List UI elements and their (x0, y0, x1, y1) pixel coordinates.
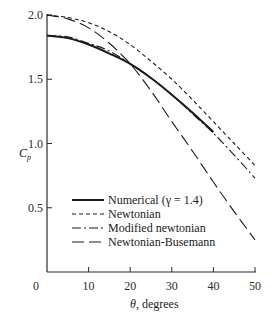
x-tick-label: 10 (83, 279, 95, 293)
x-axis-label: θ, degrees (130, 297, 179, 311)
legend-label: Modified newtonian (108, 221, 206, 235)
legend-label: Numerical (γ = 1.4) (108, 193, 203, 207)
y-ticks: 0.51.01.52.0 (28, 8, 52, 215)
series-line-2 (47, 36, 255, 179)
x-tick-label: 50 (249, 279, 261, 293)
axes: 0.51.01.52.0 1020304050 (28, 8, 261, 293)
legend: Numerical (γ = 1.4)NewtonianModified new… (72, 193, 215, 249)
legend-label: Newtonian (108, 207, 161, 221)
x-tick-label-zero: 0 (33, 279, 39, 293)
y-tick-label: 1.0 (28, 137, 43, 151)
series-line-1 (47, 15, 255, 165)
x-tick-label: 30 (166, 279, 178, 293)
chart: 0.51.01.52.0 1020304050 Numerical (γ = 1… (0, 0, 273, 314)
y-tick-label: 1.5 (28, 72, 43, 86)
legend-label: Newtonian-Busemann (108, 235, 215, 249)
series-line-0 (47, 36, 213, 132)
y-tick-label: 0.5 (28, 201, 43, 215)
x-tick-label: 20 (124, 279, 136, 293)
x-ticks: 1020304050 (83, 267, 261, 293)
y-tick-label: 2.0 (28, 8, 43, 22)
x-tick-label: 40 (207, 279, 219, 293)
